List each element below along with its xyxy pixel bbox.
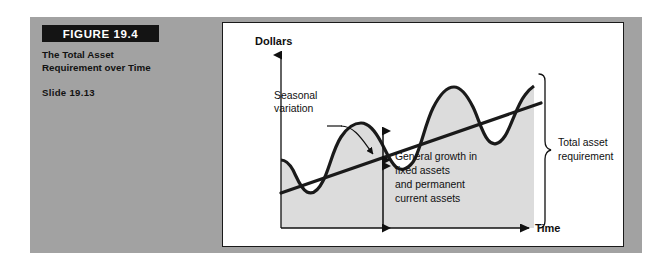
slide-panel: FIGURE 19.4 The Total Asset Requirement …: [30, 17, 642, 253]
general-growth-label-line-4: current assets: [395, 193, 460, 204]
total-asset-requirement-brace: [539, 74, 551, 228]
figure-caption-line-1: The Total Asset: [42, 49, 114, 60]
total-asset-requirement-label-line-1: Total asset: [558, 137, 608, 148]
general-growth-label-line-1: General growth in: [395, 151, 477, 162]
total-asset-requirement-label-line-2: requirement: [558, 151, 614, 162]
total-asset-requirement-chart: Dollars Time Seasonal variation General …: [223, 23, 622, 245]
figure-caption-line-2: Requirement over Time: [42, 62, 151, 73]
figure-number-banner: FIGURE 19.4: [42, 25, 159, 42]
general-growth-label-line-2: fixed assets: [395, 165, 450, 176]
chart-panel: Dollars Time Seasonal variation General …: [222, 22, 624, 247]
figure-caption: The Total Asset Requirement over Time: [42, 49, 192, 74]
seasonal-variation-label-line-2: variation: [274, 103, 313, 114]
caption-block: FIGURE 19.4 The Total Asset Requirement …: [42, 25, 207, 98]
x-axis-label: Time: [535, 222, 560, 234]
general-growth-label-line-3: and permanent: [395, 179, 465, 190]
seasonal-variation-label-line-1: Seasonal: [274, 90, 317, 101]
slide-number-label: Slide 19.13: [42, 87, 207, 98]
y-axis-label: Dollars: [255, 35, 292, 47]
screenshot-root: FIGURE 19.4 The Total Asset Requirement …: [0, 0, 672, 269]
figure-number-label: FIGURE 19.4: [63, 28, 139, 40]
